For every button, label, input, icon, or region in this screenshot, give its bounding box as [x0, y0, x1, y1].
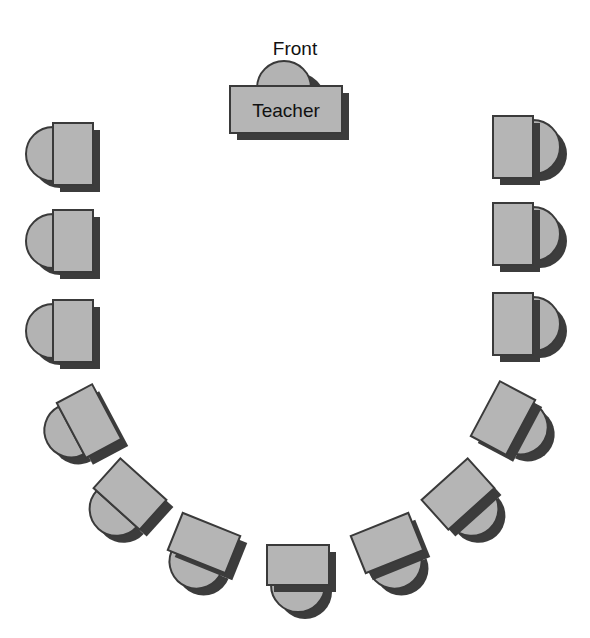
classroom-diagram: Teacher	[0, 0, 590, 638]
student-desk	[26, 123, 100, 192]
desk-top	[53, 123, 93, 185]
student-desk	[493, 203, 567, 272]
student-desks	[26, 116, 567, 619]
student-desk	[26, 210, 100, 279]
student-chair	[26, 214, 53, 268]
desk-top	[493, 293, 533, 355]
student-desk	[351, 513, 437, 604]
student-desk	[493, 293, 567, 362]
desk-top	[53, 210, 93, 272]
student-chair	[26, 127, 53, 181]
student-desk	[35, 384, 128, 474]
student-desk	[26, 300, 100, 369]
student-desk	[78, 458, 173, 554]
student-chair	[26, 304, 53, 358]
desk-top	[493, 116, 533, 178]
teacher-chair	[257, 61, 311, 88]
student-desk	[267, 545, 336, 619]
desk-top	[493, 203, 533, 265]
teacher-label: Teacher	[252, 100, 320, 121]
desk-top	[53, 300, 93, 362]
student-desk	[161, 513, 247, 604]
teacher-desk: Teacher	[230, 61, 349, 140]
desk-top	[267, 545, 329, 585]
student-desk	[422, 458, 517, 554]
student-desk	[493, 116, 567, 185]
student-desk	[471, 381, 564, 471]
